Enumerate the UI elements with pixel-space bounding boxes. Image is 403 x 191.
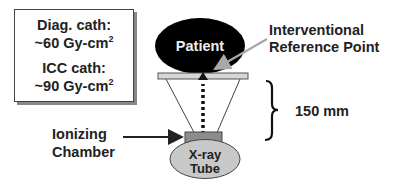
tube-label-line2: Tube xyxy=(180,161,230,177)
distance-brace xyxy=(265,81,278,140)
chamber-label-line1: Ionizing xyxy=(52,126,107,142)
irp-label-line1: Interventional xyxy=(269,22,364,38)
distance-label: 150 mm xyxy=(295,103,349,119)
irp-label-line2: Reference Point xyxy=(269,39,379,55)
chamber-label-line2: Chamber xyxy=(52,144,115,160)
patient-label: Patient xyxy=(160,38,240,54)
